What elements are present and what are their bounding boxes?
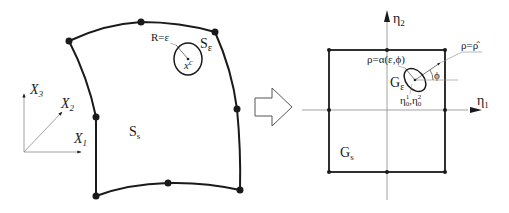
square-node [385, 170, 389, 174]
surface-boundary [69, 22, 240, 196]
phi-angle-arc [430, 70, 433, 80]
center-coordinates-label: η10,η20 [400, 94, 421, 108]
diagram-graphics [0, 0, 509, 213]
surface-node [93, 114, 100, 121]
square-node [327, 48, 331, 52]
surface-node [165, 180, 172, 187]
rho-hat-leader [440, 52, 462, 63]
eta2-arrowhead [384, 10, 390, 22]
singular-square-label: Gε [390, 76, 404, 90]
surface-node [237, 187, 244, 194]
eta1-axis-label: η1 [477, 94, 489, 108]
physical-surface-patch [66, 19, 244, 200]
surface-node [93, 193, 100, 200]
phi-label: ϕ [434, 70, 440, 81]
singular-surface-label: Sε [200, 37, 212, 51]
surface-node [212, 29, 219, 36]
parametric-plane [302, 10, 482, 200]
square-node [327, 170, 331, 174]
x3-axis-label: X3 [30, 83, 43, 97]
rho-alpha-label: ρ=α(ε,ϕ) [367, 54, 405, 65]
radius-line [176, 45, 188, 59]
mapping-arrow [255, 88, 292, 126]
diagram-canvas: X3 X2 X1 Ss Sε R=ε xc η2 η1 Gs Gε ρ=α(ε,… [0, 0, 509, 213]
x2-axis-label: X2 [61, 97, 74, 111]
x1-axis-label: X1 [74, 132, 87, 146]
source-point-label: xc [184, 60, 192, 71]
surface-node [138, 19, 145, 26]
radius-label: R=ε [151, 32, 169, 43]
square-node [443, 108, 447, 112]
rho-hat-label: ρ=ρ̂ [461, 40, 478, 51]
surface-node [234, 106, 241, 113]
square-node [443, 48, 447, 52]
square-region-label: Gs [340, 146, 354, 160]
square-node [385, 48, 389, 52]
rho-alpha-leader [398, 66, 405, 68]
square-node [443, 170, 447, 174]
rho-alpha-ray [405, 68, 415, 80]
eta2-axis-label: η2 [393, 12, 405, 26]
surface-label: Ss [129, 125, 140, 139]
x2-axis-line [24, 112, 62, 152]
surface-node [66, 38, 73, 45]
square-node [327, 108, 331, 112]
radius-leader [170, 43, 176, 45]
